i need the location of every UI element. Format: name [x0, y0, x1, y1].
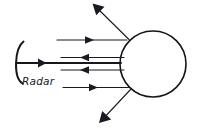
scattered-ray-up-left: [93, 4, 130, 40]
incident-ray-lower: [63, 84, 130, 92]
scattered-ray-down-left: [99, 89, 131, 123]
radar-scattering-diagram: Radar: [0, 0, 201, 136]
backscatter-ray-lower: [61, 66, 124, 74]
radar-label: Radar: [22, 75, 55, 87]
radar-diagram-canvas: Radar: [0, 0, 201, 136]
incident-ray-upper: [57, 36, 127, 44]
backscatter-ray-upper: [61, 54, 124, 62]
transmitted-beam: [17, 58, 122, 67]
